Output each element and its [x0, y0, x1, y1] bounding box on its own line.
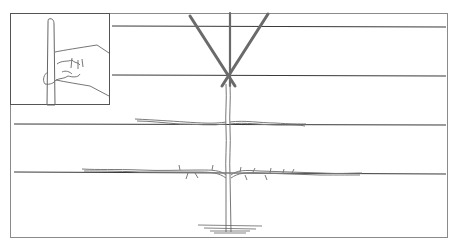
inset-detail — [11, 14, 110, 106]
inset-frame — [11, 14, 110, 105]
espalier-diagram — [0, 0, 454, 244]
